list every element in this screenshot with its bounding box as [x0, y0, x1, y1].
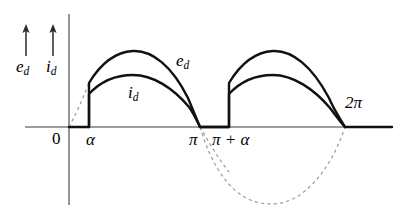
- ed-waveform: [69, 51, 392, 127]
- tick-label-pi-plus-alpha: π + α: [212, 131, 249, 148]
- id-axis-arrow-icon: [49, 24, 56, 56]
- tick-label-origin: 0: [52, 130, 61, 147]
- ed-axis-arrow-icon: [22, 24, 29, 56]
- ed-curve-label-base: e: [176, 51, 184, 70]
- waveform-plot: [0, 0, 403, 212]
- ed-axis-label: ed: [16, 58, 29, 77]
- id-curve-label-sub: d: [133, 91, 139, 104]
- id-axis-label-sub: d: [51, 65, 57, 78]
- source-sine-dashed: [69, 83, 345, 204]
- waveform-figure: ed id ed id 0 α π π + α 2π: [0, 0, 403, 212]
- id-axis-label: id: [46, 58, 57, 77]
- id-curve-label: id: [128, 84, 139, 103]
- ed-axis-label-base: e: [16, 57, 24, 76]
- tick-label-alpha: α: [86, 131, 95, 148]
- tick-label-pi: π: [189, 131, 198, 148]
- ed-curve-label-sub: d: [184, 59, 190, 72]
- ed-axis-label-sub: d: [24, 65, 30, 78]
- ed-curve-label: ed: [176, 52, 189, 71]
- tick-label-two-pi: 2π: [345, 94, 362, 111]
